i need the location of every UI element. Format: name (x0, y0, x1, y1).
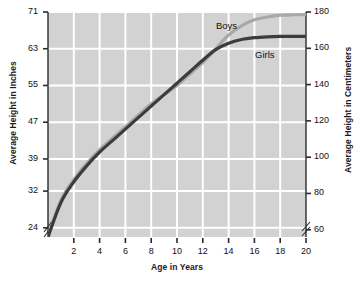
right-tick-label: 100 (314, 151, 340, 161)
right-axis-ticks (306, 12, 311, 230)
bottom-axis-ticks (74, 238, 306, 243)
left-tick-label: 55 (14, 79, 38, 89)
height-growth-chart: Average Height in Inches Average Height … (0, 0, 361, 282)
series-label-boys: Boys (216, 20, 237, 31)
x-tick-label: 12 (191, 246, 215, 256)
right-tick-label: 180 (314, 6, 340, 16)
chart-canvas (0, 0, 361, 282)
x-tick-label: 2 (62, 246, 86, 256)
left-tick-label: 24 (14, 222, 38, 232)
x-tick-label: 20 (294, 246, 318, 256)
left-axis-ticks (43, 12, 48, 228)
right-axis-title: Average Height in Centimeters (343, 53, 353, 173)
left-tick-label: 47 (14, 116, 38, 126)
x-tick-label: 4 (88, 246, 112, 256)
left-tick-label: 39 (14, 153, 38, 163)
series-label-girls: Girls (255, 49, 275, 60)
right-tick-label: 80 (314, 187, 340, 197)
x-tick-label: 6 (113, 246, 137, 256)
x-tick-label: 14 (217, 246, 241, 256)
right-tick-label: 120 (314, 115, 340, 125)
x-tick-label: 18 (268, 246, 292, 256)
x-tick-label: 8 (139, 246, 163, 256)
right-tick-label: 60 (314, 224, 340, 234)
right-tick-label: 160 (314, 42, 340, 52)
right-tick-label: 140 (314, 79, 340, 89)
x-axis-title: Age in Years (48, 262, 306, 272)
left-tick-label: 32 (14, 185, 38, 195)
x-tick-label: 10 (165, 246, 189, 256)
x-tick-label: 16 (242, 246, 266, 256)
left-tick-label: 71 (14, 6, 38, 16)
left-tick-label: 63 (14, 43, 38, 53)
